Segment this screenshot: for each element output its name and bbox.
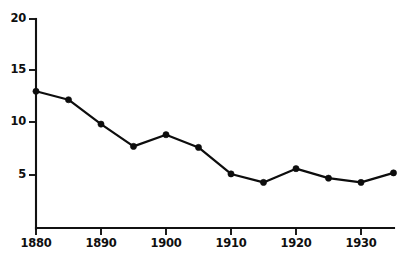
data-point-1885: [65, 97, 71, 103]
data-point-1930: [358, 179, 364, 185]
y-tick-label-5: 5: [4, 169, 26, 181]
data-point-1915: [260, 179, 266, 185]
x-tick-label-1930: 1930: [341, 238, 381, 250]
data-point-1890: [98, 121, 104, 127]
y-tick-label-10: 10: [4, 116, 26, 128]
data-point-markers: [33, 88, 397, 185]
x-tick-label-1910: 1910: [211, 238, 251, 250]
data-point-1905: [195, 144, 201, 150]
x-tick-label-1890: 1890: [81, 238, 121, 250]
data-point-1880: [33, 88, 39, 94]
x-tick-label-1920: 1920: [276, 238, 316, 250]
y-tick-label-20: 20: [4, 13, 26, 25]
data-point-1935: [390, 170, 396, 176]
data-point-1925: [325, 175, 331, 181]
data-point-1910: [228, 171, 234, 177]
data-series-line: [36, 91, 394, 182]
y-tick-label-15: 15: [4, 64, 26, 76]
x-tick-label-1880: 1880: [16, 238, 56, 250]
chart-plot-area: [0, 0, 402, 260]
data-point-1920: [293, 166, 299, 172]
x-tick-label-1900: 1900: [146, 238, 186, 250]
line-chart: 20 15 10 5 1880 1890 1900 1910 1920 1930: [0, 0, 402, 260]
data-point-1900: [163, 132, 169, 138]
data-point-1895: [130, 143, 136, 149]
